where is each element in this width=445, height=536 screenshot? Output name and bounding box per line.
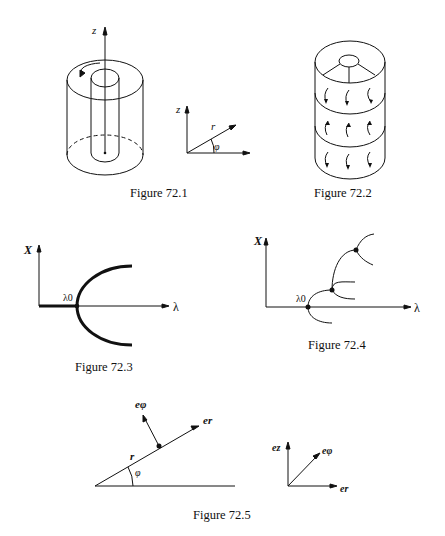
e-r-label: er xyxy=(203,414,213,426)
figure-caption: Figure 72.5 xyxy=(193,508,251,523)
z-axis-label: z xyxy=(91,24,97,36)
frame-z-label: z xyxy=(175,103,181,115)
coaxial-cylinders-diagram: z z r φ xyxy=(0,0,230,200)
y-axis-label: X xyxy=(253,234,263,248)
figure-72-2: Figure 72.2 xyxy=(230,0,445,200)
figure-72-1: z z r φ Figure 72.1 xyxy=(0,0,230,200)
figure-caption: Figure 72.2 xyxy=(314,186,372,201)
basis-phi-label: eφ xyxy=(322,445,332,456)
taylor-vortex-cylinder-diagram xyxy=(230,0,445,200)
pitchfork-bifurcation-diagram: X λ λ0 xyxy=(0,200,230,380)
bifurcation-cascade-diagram: X λ λ0 xyxy=(230,200,445,380)
figure-72-5: eφ er r φ ez eφ er Figure 72.5 xyxy=(60,380,400,536)
figure-caption: Figure 72.4 xyxy=(308,338,366,353)
critical-point-label: λ0 xyxy=(296,293,306,304)
frame-r-label: r xyxy=(211,120,216,132)
critical-point-label: λ0 xyxy=(63,292,73,303)
figure-72-3: X λ λ0 Figure 72.3 xyxy=(0,200,230,380)
x-axis-label: λ xyxy=(173,300,179,314)
y-axis-label: X xyxy=(23,243,33,257)
basis-r-label: er xyxy=(340,483,348,494)
figure-caption: Figure 72.1 xyxy=(130,186,188,201)
basis-z-label: ez xyxy=(272,442,280,453)
e-phi-label: eφ xyxy=(135,398,147,410)
x-axis-label: λ xyxy=(414,301,420,315)
frame-angle-label: φ xyxy=(214,141,220,152)
r-label: r xyxy=(130,450,135,462)
figure-caption: Figure 72.3 xyxy=(75,360,133,375)
angle-label: φ xyxy=(135,467,141,478)
figure-72-4: X λ λ0 Figure 72.4 xyxy=(230,200,445,380)
